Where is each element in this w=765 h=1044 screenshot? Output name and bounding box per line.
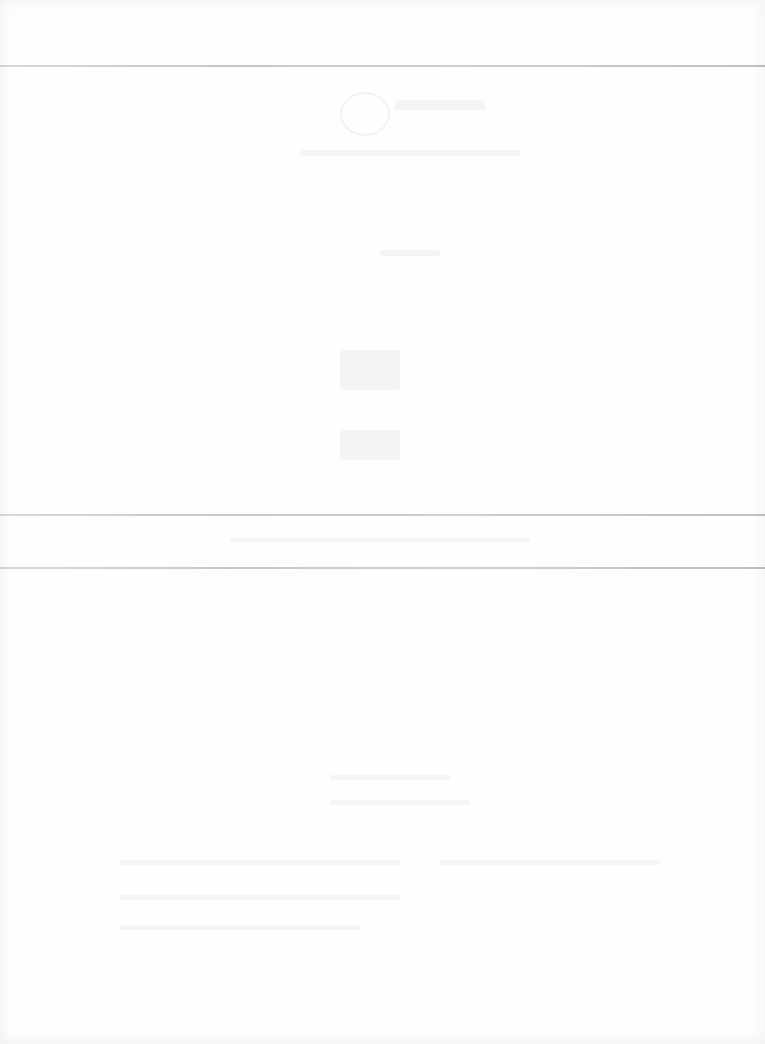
faded-text-line xyxy=(330,800,470,805)
top-horizontal-rule xyxy=(0,65,765,67)
faded-figure xyxy=(340,350,400,390)
faded-text-line xyxy=(120,860,400,865)
faded-text-line xyxy=(120,895,400,900)
middle-horizontal-rule-lower xyxy=(0,567,765,569)
faded-logo-icon xyxy=(340,92,390,136)
scanned-page xyxy=(0,0,765,1044)
faded-text-line xyxy=(120,925,360,930)
middle-horizontal-rule-upper xyxy=(0,514,765,516)
faded-text-line xyxy=(300,150,520,156)
faded-figure xyxy=(340,430,400,460)
faded-text-line xyxy=(230,538,530,542)
faded-text-line xyxy=(440,860,660,865)
faded-text-line xyxy=(330,775,450,780)
faded-heading-line xyxy=(395,100,485,110)
scan-edge-shading xyxy=(0,0,765,1044)
faded-text-line xyxy=(380,250,440,256)
